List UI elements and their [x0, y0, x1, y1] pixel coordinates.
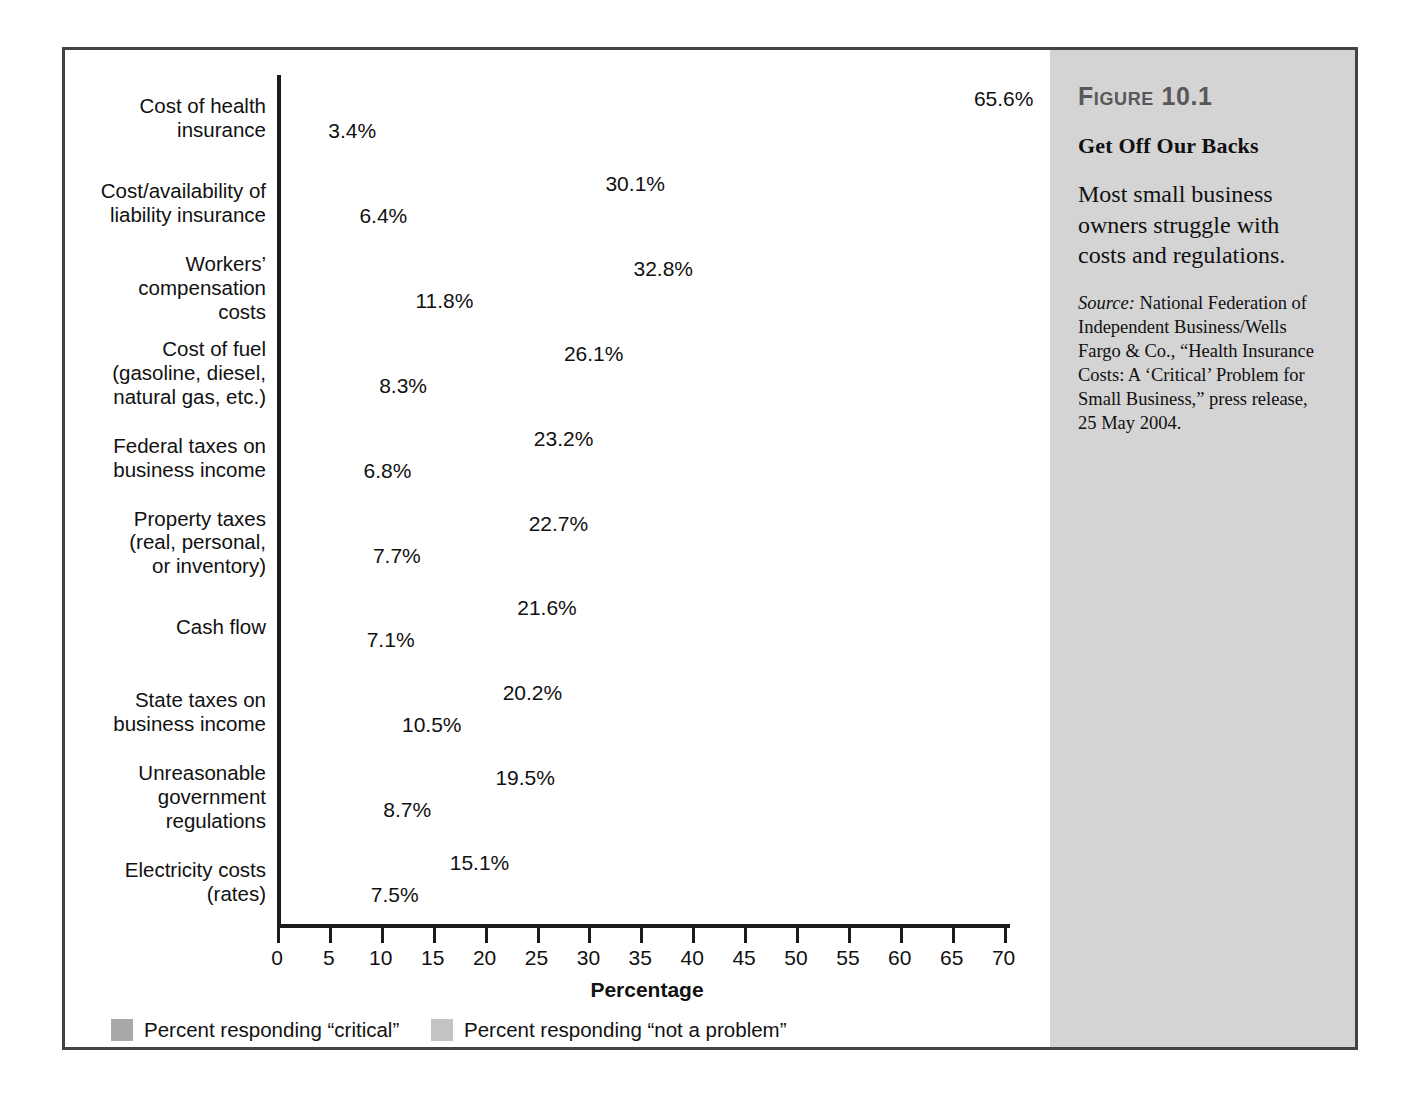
- bar-group: Cash flow21.6%7.1%: [65, 584, 1056, 669]
- category-label-line: business income: [36, 712, 266, 736]
- category-label: Cost of healthinsurance: [36, 94, 266, 142]
- bar-group: Federal taxes onbusiness income23.2%6.8%: [65, 415, 1056, 500]
- x-axis-tick-label: 50: [776, 946, 816, 970]
- x-axis-tick: [692, 928, 695, 943]
- category-label-line: insurance: [36, 118, 266, 142]
- bar-critical[interactable]: [281, 84, 962, 115]
- bar-value-notproblem: 7.7%: [373, 544, 421, 568]
- bar-value-notproblem: 10.5%: [402, 713, 462, 737]
- bar-notproblem[interactable]: [281, 456, 352, 487]
- bar-value-critical: 65.6%: [974, 87, 1034, 111]
- x-axis-title: Percentage: [277, 978, 1017, 1002]
- x-axis-tick-label: 30: [568, 946, 608, 970]
- chart-legend: Percent responding “critical”Percent res…: [111, 1018, 1011, 1052]
- x-axis-tick-label: 20: [465, 946, 505, 970]
- bar-value-critical: 32.8%: [633, 257, 693, 281]
- bar-notproblem-shadow: [288, 911, 366, 918]
- bar-notproblem[interactable]: [281, 880, 359, 911]
- category-label-line: Federal taxes on: [36, 434, 266, 458]
- bar-groups-container: Cost of healthinsurance65.6%3.4%Cost/ava…: [65, 75, 1056, 924]
- x-axis-tick: [744, 928, 747, 943]
- x-axis-tick: [640, 928, 643, 943]
- category-label-line: Property taxes: [36, 507, 266, 531]
- bar-critical[interactable]: [281, 593, 505, 624]
- category-label-line: Workers’: [36, 252, 266, 276]
- bar-notproblem[interactable]: [281, 371, 367, 402]
- bar-notproblem-shadow: [288, 232, 354, 239]
- bar-critical[interactable]: [281, 509, 517, 540]
- bar-value-notproblem: 7.1%: [367, 628, 415, 652]
- x-axis-tick-label: 35: [620, 946, 660, 970]
- source-label: Source:: [1078, 293, 1135, 313]
- bar-notproblem[interactable]: [281, 116, 316, 147]
- category-label-line: costs: [36, 300, 266, 324]
- bar-notproblem[interactable]: [281, 286, 403, 317]
- x-axis-tick-label: 0: [257, 946, 297, 970]
- legend-swatch-icon: [431, 1019, 453, 1041]
- x-axis-tick-label: 55: [828, 946, 868, 970]
- bar-notproblem-shadow: [288, 402, 374, 409]
- x-axis-tick: [848, 928, 851, 943]
- bar-critical[interactable]: [281, 254, 621, 285]
- bar-group: Property taxes(real, personal,or invento…: [65, 500, 1056, 585]
- bar-value-critical: 19.5%: [495, 766, 555, 790]
- x-axis-tick-label: 60: [880, 946, 920, 970]
- category-label-line: (gasoline, diesel,: [36, 361, 266, 385]
- category-label-line: regulations: [36, 809, 266, 833]
- x-axis-tick-label: 15: [413, 946, 453, 970]
- x-axis: 0510152025303540455055606570: [277, 924, 1017, 925]
- bar-notproblem-shadow: [288, 656, 362, 663]
- x-axis-tick-label: 45: [724, 946, 764, 970]
- x-axis-tick-label: 5: [309, 946, 349, 970]
- category-label: Federal taxes onbusiness income: [36, 434, 266, 482]
- bar-notproblem[interactable]: [281, 625, 355, 656]
- category-label: State taxes onbusiness income: [36, 688, 266, 736]
- bar-group: Electricity costs(rates)15.1%7.5%: [65, 839, 1056, 924]
- x-axis-tick-label: 25: [517, 946, 557, 970]
- legend-item[interactable]: Percent responding “critical”: [111, 1018, 399, 1042]
- x-axis-tick: [277, 928, 280, 943]
- bar-value-critical: 23.2%: [534, 427, 594, 451]
- x-axis-tick: [329, 928, 332, 943]
- bar-critical-shadow: [288, 115, 969, 122]
- category-label: Electricity costs(rates): [36, 858, 266, 906]
- x-axis-tick: [796, 928, 799, 943]
- bar-critical[interactable]: [281, 424, 522, 455]
- bar-critical[interactable]: [281, 763, 483, 794]
- x-axis-tick: [588, 928, 591, 943]
- bar-value-notproblem: 7.5%: [371, 883, 419, 907]
- source-text: National Federation of Independent Busin…: [1078, 293, 1314, 433]
- x-axis-tick: [1004, 928, 1007, 943]
- bar-value-notproblem: 8.7%: [383, 798, 431, 822]
- figure-frame: Cost of healthinsurance65.6%3.4%Cost/ava…: [62, 47, 1358, 1050]
- bar-notproblem-shadow: [288, 147, 323, 154]
- figure-caption-panel: Figure 10.1 Get Off Our Backs Most small…: [1050, 50, 1355, 1047]
- category-label-line: Cost of health: [36, 94, 266, 118]
- x-axis-tick-label: 70: [984, 946, 1024, 970]
- legend-item[interactable]: Percent responding “not a problem”: [431, 1018, 787, 1042]
- x-axis-tick: [485, 928, 488, 943]
- bar-value-critical: 26.1%: [564, 342, 624, 366]
- x-axis-tick-label: 10: [361, 946, 401, 970]
- category-label-line: (rates): [36, 882, 266, 906]
- bar-value-notproblem: 6.4%: [359, 204, 407, 228]
- category-label: Workers’compensationcosts: [36, 252, 266, 324]
- x-axis-tick-label: 65: [932, 946, 972, 970]
- category-label-line: (real, personal,: [36, 530, 266, 554]
- bar-group: Cost of healthinsurance65.6%3.4%: [65, 75, 1056, 160]
- bar-notproblem[interactable]: [281, 201, 347, 232]
- bar-critical[interactable]: [281, 678, 491, 709]
- bar-value-critical: 22.7%: [529, 512, 589, 536]
- category-label-line: Cost/availability of: [36, 179, 266, 203]
- bar-notproblem[interactable]: [281, 541, 361, 572]
- x-axis-tick: [381, 928, 384, 943]
- bar-critical[interactable]: [281, 848, 438, 879]
- bar-critical[interactable]: [281, 169, 593, 200]
- category-label: Property taxes(real, personal,or invento…: [36, 507, 266, 579]
- category-label: Cost of fuel(gasoline, diesel,natural ga…: [36, 337, 266, 409]
- bar-notproblem[interactable]: [281, 795, 371, 826]
- category-label-line: liability insurance: [36, 203, 266, 227]
- bar-group: Unreasonablegovernmentregulations19.5%8.…: [65, 754, 1056, 839]
- bar-critical[interactable]: [281, 339, 552, 370]
- bar-notproblem[interactable]: [281, 710, 390, 741]
